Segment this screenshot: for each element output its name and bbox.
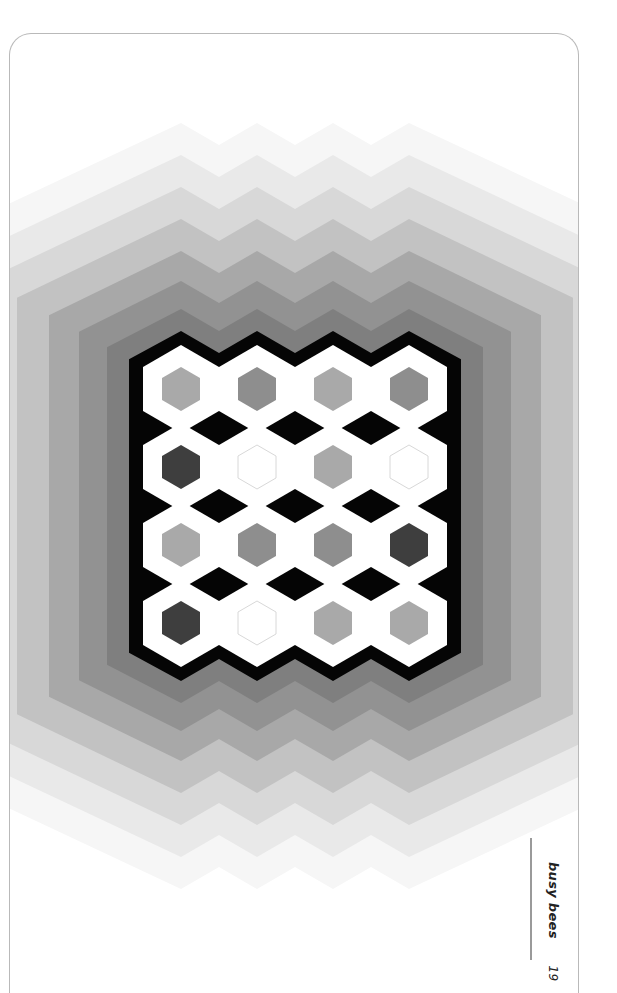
page-frame <box>9 33 579 993</box>
running-head: busy bees 19 <box>546 862 561 981</box>
quilt-diagram <box>10 34 579 993</box>
book-title: busy bees <box>546 862 561 939</box>
page-number: 19 <box>546 966 560 982</box>
spine-rule <box>530 838 532 960</box>
